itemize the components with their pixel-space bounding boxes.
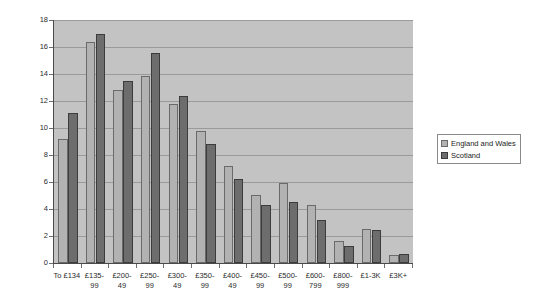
bar — [399, 254, 409, 263]
bar — [279, 183, 289, 263]
x-axis-tick-mark — [384, 264, 385, 268]
bar — [362, 229, 372, 263]
y-axis-tick-labels: 024681012141618 — [26, 14, 48, 270]
bar — [307, 205, 317, 263]
x-axis-tick-mark — [163, 264, 164, 268]
bar — [58, 139, 68, 263]
bar — [206, 144, 216, 263]
bar-group — [330, 20, 358, 263]
bar — [179, 96, 189, 263]
bar — [113, 90, 123, 263]
x-axis-tick-mark — [136, 264, 137, 268]
x-axis-tick-mark — [274, 264, 275, 268]
bar — [234, 179, 244, 263]
bar-group — [54, 20, 82, 263]
bar — [196, 131, 206, 263]
x-axis-tick-mark — [219, 264, 220, 268]
bar-group — [385, 20, 413, 263]
x-axis-tick-mark — [53, 264, 54, 268]
legend-swatch-icon-scotland — [441, 152, 448, 159]
y-axis-tick-label: 6 — [26, 178, 48, 186]
bar — [389, 255, 399, 263]
legend-item-scotland: Scotland — [441, 150, 516, 160]
bar-group — [82, 20, 110, 263]
bar-group — [164, 20, 192, 263]
bar-group — [275, 20, 303, 263]
bar — [261, 205, 271, 263]
x-axis-tick-mark — [108, 264, 109, 268]
bar — [86, 42, 96, 263]
x-axis-tick-mark — [246, 264, 247, 268]
y-axis-tick-label: 16 — [26, 43, 48, 51]
y-axis-tick-label: 12 — [26, 97, 48, 105]
bar — [317, 220, 327, 263]
bar — [289, 202, 299, 263]
y-axis-tick-label: 10 — [26, 124, 48, 132]
bars-layer — [54, 20, 413, 263]
bar — [68, 113, 78, 263]
x-axis-tick-mark — [412, 264, 413, 268]
bar — [372, 230, 382, 263]
bar — [224, 166, 234, 263]
bar — [334, 241, 344, 263]
bar-group — [220, 20, 248, 263]
legend-item-england-and-wales: England and Wales — [441, 138, 516, 148]
bar-chart: Percentage 024681012141618 To £134£135-9… — [0, 0, 557, 307]
legend-label-scotland: Scotland — [451, 151, 480, 160]
bar — [141, 76, 151, 263]
x-axis-tick-mark — [302, 264, 303, 268]
bar — [123, 81, 133, 263]
bar-group — [192, 20, 220, 263]
y-axis-tick-label: 0 — [26, 259, 48, 267]
y-axis-tick-label: 18 — [26, 16, 48, 24]
bar-group — [109, 20, 137, 263]
y-axis-tick-label: 4 — [26, 205, 48, 213]
x-axis-tick-mark — [81, 264, 82, 268]
x-axis-tick-mark — [329, 264, 330, 268]
x-axis-tick-mark — [191, 264, 192, 268]
bar-group — [247, 20, 275, 263]
bar — [251, 195, 261, 263]
x-axis-tick-labels: To £134£135-99£200-49£250-99£300-49£350-… — [53, 271, 413, 305]
x-axis-tick-label: £3K+ — [378, 271, 418, 281]
y-axis-tick-label: 8 — [26, 151, 48, 159]
y-axis-tick-label: 14 — [26, 70, 48, 78]
bar — [344, 246, 354, 263]
y-axis-tick-label: 2 — [26, 232, 48, 240]
legend-label-england-and-wales: England and Wales — [451, 139, 516, 148]
x-axis-tick-mark — [357, 264, 358, 268]
legend-swatch-icon-england-and-wales — [441, 140, 448, 147]
x-axis-tick-marks — [53, 264, 413, 269]
bar — [169, 104, 179, 263]
chart-legend: England and Wales Scotland — [437, 134, 521, 164]
bar-group — [358, 20, 386, 263]
bar-group — [137, 20, 165, 263]
plot-area — [53, 20, 413, 264]
bar — [96, 34, 106, 264]
bar — [151, 53, 161, 263]
bar-group — [303, 20, 331, 263]
